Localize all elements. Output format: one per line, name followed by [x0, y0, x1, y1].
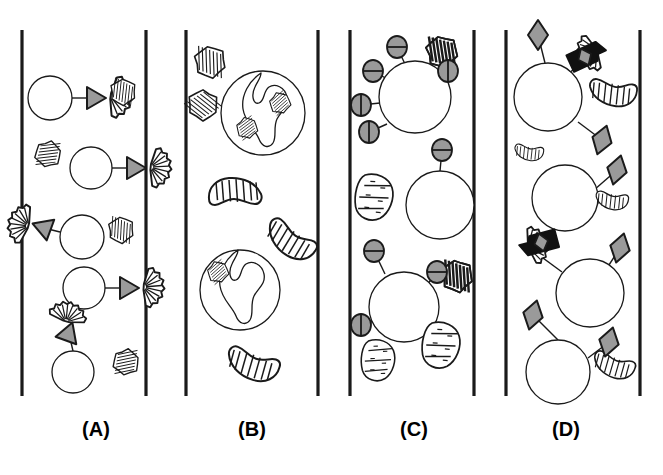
hatched-microbe — [190, 43, 230, 81]
hatched-microbe — [112, 347, 140, 378]
fan-outline — [149, 147, 174, 189]
crescent-outline — [223, 344, 282, 387]
triangle-shape — [120, 277, 139, 299]
diamond-ligand — [603, 153, 630, 187]
figure-canvas — [0, 0, 663, 475]
triangle-shape — [127, 157, 146, 179]
stipple-microbe — [358, 337, 398, 383]
crescent-microbe — [223, 344, 282, 387]
hatched-microbe — [183, 85, 224, 125]
leukocyte-circle — [52, 351, 94, 393]
receptor-symbol — [351, 94, 371, 116]
crescent-outline — [587, 77, 638, 109]
receptor-symbol — [438, 60, 458, 82]
diamond-shape — [606, 231, 633, 265]
receptor-symbol — [351, 314, 371, 336]
cell-circle — [526, 340, 590, 404]
diamond-ligand — [588, 123, 616, 158]
hatched-microbe — [33, 138, 63, 170]
crescent-outline — [590, 349, 637, 384]
leukocyte-circle — [28, 76, 72, 120]
panel-label-a: (A) — [36, 418, 156, 441]
crescent-microbe — [590, 349, 637, 384]
phagocyte-circle — [200, 250, 280, 330]
cell-circle — [406, 171, 474, 239]
diamond-shape — [519, 298, 546, 332]
panel-c — [350, 30, 478, 396]
diamond-ligand — [519, 298, 546, 332]
adhesin-triangle — [29, 213, 54, 240]
receptor-symbol — [363, 60, 383, 82]
leukocyte-circle — [60, 215, 104, 259]
cell-circle — [532, 165, 598, 231]
leukocyte-circle — [70, 147, 112, 189]
crescent-microbe — [261, 215, 320, 267]
panel-label-d: (D) — [506, 418, 626, 441]
panel-label-c: (C) — [354, 418, 474, 441]
cell-circle — [514, 63, 582, 131]
black-clamp-hook — [518, 230, 559, 257]
phagocyte-circle — [221, 71, 305, 155]
stipple-microbe — [350, 171, 398, 225]
diamond-shape — [588, 123, 616, 158]
diamond-ligand — [606, 231, 633, 265]
diamond-shape — [528, 20, 548, 50]
panel-b — [183, 30, 320, 396]
adhesin-triangle — [87, 87, 106, 109]
receptor-symbol — [364, 240, 384, 262]
panel-label-b: (B) — [192, 418, 312, 441]
crescent-outline — [594, 190, 629, 212]
diamond-ligand — [528, 20, 548, 50]
figure-root: (A)(B)(C)(D) — [0, 0, 663, 475]
crescent-outline — [513, 143, 544, 163]
fan-outline — [3, 201, 34, 245]
receptor-symbol — [427, 261, 447, 283]
triangle-shape — [29, 213, 54, 240]
hatched-microbe — [104, 213, 138, 246]
panel-a — [3, 30, 174, 396]
crescent-microbe — [594, 190, 629, 212]
triangle-shape — [87, 87, 106, 109]
fan-microbe — [149, 147, 174, 189]
crescent-microbe — [513, 143, 544, 163]
crescent-microbe — [587, 77, 638, 109]
diamond-shape — [603, 153, 630, 187]
cell-circle — [556, 259, 624, 327]
panel-d — [506, 20, 640, 404]
crescent-outline — [261, 215, 320, 267]
fan-microbe — [3, 201, 34, 245]
receptor-symbol — [432, 139, 452, 161]
receptor-symbol — [359, 121, 379, 143]
adhesin-triangle — [120, 277, 139, 299]
crescent-microbe — [209, 178, 262, 205]
adhesin-triangle — [127, 157, 146, 179]
receptor-symbol — [387, 36, 407, 58]
